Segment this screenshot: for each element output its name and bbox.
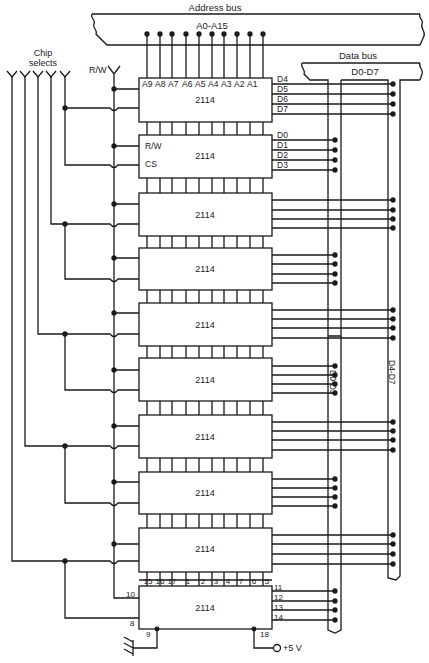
ground-connection bbox=[124, 627, 159, 656]
svg-text:D1: D1 bbox=[277, 140, 288, 150]
svg-text:2114: 2114 bbox=[195, 210, 214, 220]
chip-9: 2114 bbox=[139, 528, 272, 572]
svg-text:2114: 2114 bbox=[195, 603, 214, 613]
svg-text:5: 5 bbox=[265, 577, 270, 586]
svg-text:A4: A4 bbox=[208, 79, 219, 89]
svg-text:7: 7 bbox=[239, 577, 244, 586]
svg-text:A9: A9 bbox=[142, 79, 153, 89]
svg-text:D0: D0 bbox=[277, 130, 288, 140]
svg-text:15: 15 bbox=[144, 577, 153, 586]
chip-7: 2114 bbox=[139, 415, 272, 458]
svg-text:16: 16 bbox=[156, 577, 165, 586]
memory-array-schematic: Address bus A0-A15 Data bus D0-D7 D0-D3 … bbox=[0, 0, 429, 663]
address-range-label: A0-A15 bbox=[196, 20, 228, 31]
svg-text:9: 9 bbox=[146, 630, 151, 639]
svg-text:D3: D3 bbox=[277, 160, 288, 170]
svg-text:A8: A8 bbox=[155, 79, 166, 89]
chip-10: 2114 15 16 17 1 2 3 4 7 6 5 11 12 13 14 … bbox=[126, 577, 283, 639]
svg-text:2114: 2114 bbox=[195, 264, 214, 274]
svg-text:D6: D6 bbox=[277, 94, 288, 104]
svg-text:17: 17 bbox=[168, 577, 177, 586]
svg-text:1: 1 bbox=[186, 577, 191, 586]
svg-text:18: 18 bbox=[260, 630, 269, 639]
power-label: +5 V bbox=[283, 643, 302, 653]
svg-text:CS: CS bbox=[145, 159, 157, 169]
address-bus: Address bus A0-A15 bbox=[92, 2, 425, 45]
svg-text:D2: D2 bbox=[277, 150, 288, 160]
svg-text:2114: 2114 bbox=[195, 95, 214, 105]
svg-text:selects: selects bbox=[29, 58, 58, 68]
chip-select-lines: Chip selects bbox=[7, 48, 139, 618]
svg-text:2114: 2114 bbox=[195, 151, 214, 161]
svg-text:2114: 2114 bbox=[195, 432, 214, 442]
chip-5: 2114 bbox=[139, 303, 272, 346]
svg-text:A7: A7 bbox=[168, 79, 179, 89]
data-bus: Data bus D0-D7 D0-D3 D4-D7 bbox=[302, 50, 423, 580]
svg-text:R/W: R/W bbox=[145, 141, 162, 151]
data-bus-label: Data bus bbox=[339, 50, 377, 61]
svg-text:3: 3 bbox=[214, 577, 219, 586]
address-ladders bbox=[139, 122, 272, 586]
svg-text:2114: 2114 bbox=[195, 320, 214, 330]
data-range-label: D0-D7 bbox=[351, 66, 378, 77]
rw-label: R/W bbox=[89, 65, 107, 75]
svg-text:A1: A1 bbox=[247, 79, 258, 89]
svg-text:D7: D7 bbox=[277, 104, 288, 114]
bus-high-label: D4-D7 bbox=[387, 360, 397, 385]
chip-3: 2114 bbox=[139, 193, 272, 236]
rw-line: R/W bbox=[89, 65, 139, 598]
chip-6: 2114 bbox=[139, 358, 272, 401]
chip-4: 2114 bbox=[139, 248, 272, 290]
svg-text:2114: 2114 bbox=[195, 488, 214, 498]
svg-text:4: 4 bbox=[226, 577, 231, 586]
svg-text:D5: D5 bbox=[277, 84, 288, 94]
svg-text:A6: A6 bbox=[182, 79, 193, 89]
svg-text:2: 2 bbox=[201, 577, 206, 586]
chip-2: 2114 R/W CS D0 D1 D2 D3 bbox=[139, 130, 288, 178]
address-lines bbox=[145, 32, 265, 78]
svg-text:8: 8 bbox=[130, 619, 135, 628]
address-bus-label: Address bus bbox=[189, 2, 242, 13]
svg-text:D4: D4 bbox=[277, 74, 288, 84]
svg-text:A2: A2 bbox=[234, 79, 245, 89]
data-lines bbox=[272, 82, 395, 633]
svg-text:Chip: Chip bbox=[34, 48, 53, 58]
svg-text:A5: A5 bbox=[195, 79, 206, 89]
svg-text:6: 6 bbox=[252, 577, 257, 586]
svg-text:A3: A3 bbox=[221, 79, 232, 89]
chip-1: 2114 A9 A8 A7 A6 A5 A4 A3 A2 A1 D4 D5 D6… bbox=[139, 74, 288, 122]
svg-text:2114: 2114 bbox=[195, 375, 214, 385]
chip-8: 2114 bbox=[139, 472, 272, 514]
svg-text:2114: 2114 bbox=[195, 544, 214, 554]
